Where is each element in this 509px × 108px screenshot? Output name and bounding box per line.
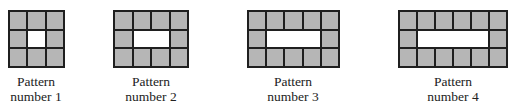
caption-line-1: Pattern	[96, 74, 206, 89]
gray-tile	[28, 12, 44, 29]
gray-tile	[115, 12, 132, 29]
white-center-region	[267, 31, 320, 48]
gray-tile	[285, 12, 301, 29]
gray-tile	[10, 12, 26, 29]
pattern-2-caption: Pattern number 2	[96, 74, 206, 104]
gray-tile	[134, 12, 151, 29]
gray-tile	[134, 49, 151, 66]
white-center-region	[418, 31, 488, 48]
gray-tile	[490, 12, 506, 29]
gray-tile	[454, 12, 470, 29]
gray-tile	[472, 12, 488, 29]
gray-tile	[322, 49, 338, 66]
white-center-region	[28, 31, 44, 48]
gray-tile	[115, 31, 132, 48]
gray-tile	[472, 49, 488, 66]
gray-tile	[322, 31, 338, 48]
pattern-3-caption: Pattern number 3	[238, 74, 348, 104]
white-center-region	[134, 31, 169, 48]
gray-tile	[436, 12, 452, 29]
gray-tile	[10, 31, 26, 48]
gray-tile	[28, 49, 44, 66]
gray-tile	[249, 49, 265, 66]
gray-tile	[267, 49, 283, 66]
gray-tile	[490, 31, 506, 48]
gray-tile	[304, 12, 320, 29]
gray-tile	[152, 49, 169, 66]
gray-tile	[47, 49, 63, 66]
caption-line-1: Pattern	[398, 74, 508, 89]
gray-tile	[171, 31, 188, 48]
gray-tile	[400, 31, 416, 48]
gray-tile	[171, 12, 188, 29]
gray-tile	[418, 49, 434, 66]
gray-tile	[267, 12, 283, 29]
gray-tile	[400, 12, 416, 29]
gray-tile	[304, 49, 320, 66]
pattern-2-grid	[113, 10, 189, 68]
gray-tile	[115, 49, 132, 66]
pattern-1-caption: Pattern number 1	[0, 74, 91, 104]
gray-tile	[454, 49, 470, 66]
gray-tile	[436, 49, 452, 66]
gray-tile	[152, 12, 169, 29]
caption-line-1: Pattern	[238, 74, 348, 89]
pattern-3-grid	[247, 10, 340, 68]
gray-tile	[47, 12, 63, 29]
pattern-4-grid	[398, 10, 508, 68]
gray-tile	[249, 31, 265, 48]
caption-line-2: number 1	[0, 89, 91, 104]
gray-tile	[10, 49, 26, 66]
gray-tile	[400, 49, 416, 66]
pattern-1-grid	[8, 10, 65, 68]
caption-line-2: number 3	[238, 89, 348, 104]
caption-line-2: number 2	[96, 89, 206, 104]
gray-tile	[490, 49, 506, 66]
gray-tile	[47, 31, 63, 48]
caption-line-2: number 4	[398, 89, 508, 104]
gray-tile	[249, 12, 265, 29]
gray-tile	[171, 49, 188, 66]
pattern-4-caption: Pattern number 4	[398, 74, 508, 104]
caption-line-1: Pattern	[0, 74, 91, 89]
gray-tile	[418, 12, 434, 29]
gray-tile	[285, 49, 301, 66]
gray-tile	[322, 12, 338, 29]
